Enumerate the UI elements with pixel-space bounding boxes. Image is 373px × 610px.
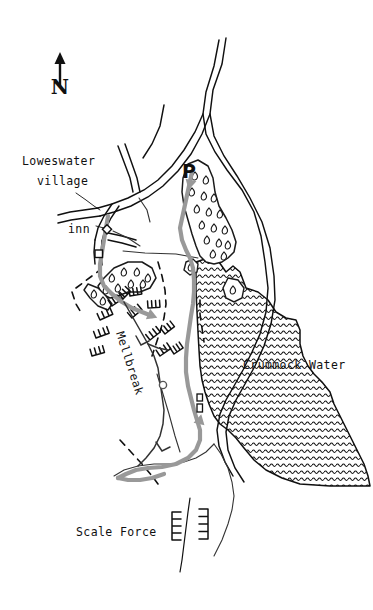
scale-force-waterfall-symbol: [172, 498, 208, 572]
walking-route: [100, 172, 200, 480]
building-icon-1: [95, 250, 103, 258]
leader-loweswater: [76, 193, 100, 210]
label-inn: inn: [68, 222, 90, 236]
leader-inn: [96, 226, 104, 228]
map-canvas: N Loweswater village inn P Mellbreak Cru…: [0, 0, 373, 610]
lake-polygon: [196, 258, 370, 486]
label-crummock-water: Crummock Water: [243, 358, 346, 372]
label-loweswater-village-line1: Loweswater: [22, 154, 95, 168]
map-drawing: N Loweswater village inn P Mellbreak Cru…: [0, 0, 373, 610]
label-mellbreak: Mellbreak: [113, 330, 147, 397]
waypoint-marker: [159, 381, 166, 388]
label-parking: P: [182, 160, 196, 182]
beck-arrow-2: [156, 442, 170, 451]
route-arrow-2: [146, 309, 159, 323]
building-icon-2: [197, 404, 203, 412]
label-loweswater-village-line2: village: [37, 174, 88, 188]
building-icon-3: [197, 394, 203, 401]
boundary-w: [72, 292, 82, 314]
label-scale-force: Scale Force: [76, 525, 157, 539]
north-label: N: [51, 75, 69, 99]
crummock-water-lake: [196, 258, 370, 486]
